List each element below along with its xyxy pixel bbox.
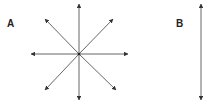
radial-arrows <box>31 4 128 100</box>
arrow-down-left <box>45 54 79 90</box>
arrow-down-right <box>79 54 116 90</box>
arrow-up-left <box>45 19 79 54</box>
center-point <box>78 53 81 56</box>
arrow-up-right <box>79 19 113 54</box>
arrow-diagram <box>0 0 205 101</box>
